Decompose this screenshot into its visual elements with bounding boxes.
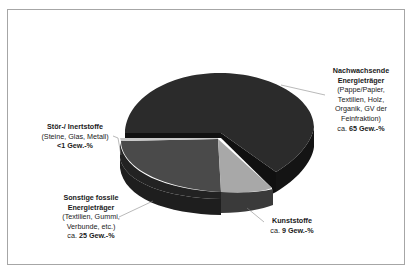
- label-stoer-line1: (Steine, Glas, Metall): [32, 132, 118, 142]
- label-kunststoffe-value-prefix: ca.: [270, 226, 282, 235]
- label-sonstige-line1: (Textilien, Gummi,: [50, 212, 132, 222]
- label-sonstige-title1: Sonstige fossile: [50, 193, 132, 203]
- label-kunststoffe-title: Kunststoffe: [262, 216, 322, 226]
- label-nachwachsende-title2: Energieträger: [320, 76, 402, 86]
- label-nachwachsende-value-prefix: ca.: [337, 124, 349, 133]
- label-nachwachsende-line2: Textilien, Holz,: [320, 95, 402, 105]
- label-nachwachsende-line3: Organik, GV der: [320, 104, 402, 114]
- label-kunststoffe-value: 9 Gew.-%: [282, 226, 314, 235]
- label-stoer-value: <1 Gew.-%: [32, 141, 118, 151]
- slice-sonstige: [120, 139, 221, 215]
- label-sonstige-value: 25 Gew.-%: [79, 231, 115, 240]
- label-nachwachsende-title1: Nachwachsende: [320, 66, 402, 76]
- label-nachwachsende: Nachwachsende Energieträger (Pappe/Papie…: [320, 66, 402, 133]
- label-nachwachsende-line1: (Pappe/Papier,: [320, 85, 402, 95]
- label-sonstige-value-line: ca. 25 Gew.-%: [50, 231, 132, 241]
- label-sonstige-value-prefix: ca.: [67, 231, 79, 240]
- label-sonstige-line2: Verbunde, etc.): [50, 222, 132, 232]
- label-stoer: Stör-/ Inertstoffe (Steine, Glas, Metall…: [32, 122, 118, 151]
- label-stoer-title: Stör-/ Inertstoffe: [32, 122, 118, 132]
- label-nachwachsende-value: 65 Gew.-%: [349, 124, 385, 133]
- label-kunststoffe-value-line: ca. 9 Gew.-%: [262, 226, 322, 236]
- label-sonstige: Sonstige fossile Energieträger (Textilie…: [50, 193, 132, 241]
- label-sonstige-title2: Energieträger: [50, 203, 132, 213]
- label-nachwachsende-value-line: ca. 65 Gew.-%: [320, 124, 402, 134]
- label-nachwachsende-line4: Feinfraktion): [320, 114, 402, 124]
- label-kunststoffe: Kunststoffe ca. 9 Gew.-%: [262, 216, 322, 235]
